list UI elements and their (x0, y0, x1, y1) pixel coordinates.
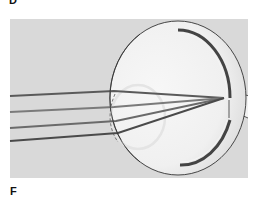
eye-globe (110, 21, 246, 175)
eye-diagram (0, 0, 261, 197)
panel-label-bottom: F (10, 185, 17, 197)
